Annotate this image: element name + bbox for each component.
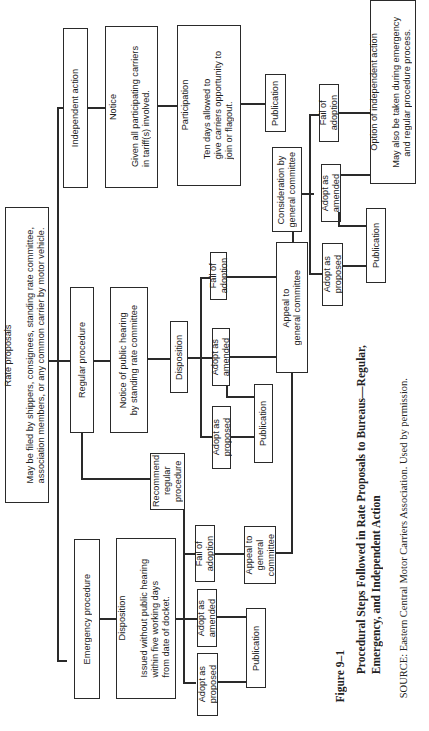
connector: [226, 396, 255, 398]
emergency-publication-box: Publication: [246, 608, 266, 688]
rate-proposals-box: Rate proposals May be filed by shippers,…: [5, 207, 49, 503]
recommend-regular-box: Recommend regular procedure: [150, 453, 185, 510]
amended-label: Adopt as amended: [196, 599, 218, 637]
independent-action-label: Independent action: [70, 69, 81, 147]
publication-label: Publication: [258, 401, 269, 446]
independent-publication-box: Publication: [265, 74, 286, 132]
fail-label: Fail of adoption: [194, 536, 216, 571]
option-title: Option of independent action: [369, 17, 380, 168]
figure-number: Figure 9–1: [334, 650, 346, 703]
regular-appeal-box: Appeal to general committee: [276, 242, 308, 373]
emergency-fail-box: Fail of adoption: [195, 525, 215, 582]
general-fail-box: Fail of adoption: [319, 84, 339, 142]
branch-line: [200, 277, 202, 437]
connector: [214, 553, 245, 555]
fail-label: Fail of adoption: [318, 95, 340, 130]
public-hearing-notice-box: Notice of public hearing by standing rat…: [110, 287, 148, 433]
option-body: May also be taken during emergency and r…: [391, 17, 413, 168]
emergency-appeal-box: Appeal to general committee: [244, 526, 276, 584]
regular-procedure-box: Regular procedure: [70, 287, 94, 433]
emergency-procedure-label: Emergency procedure: [82, 574, 93, 664]
regular-disposition-box: Disposition: [170, 321, 188, 393]
appeal-label: Appeal to general committee: [244, 534, 277, 576]
general-publication-box: Publication: [366, 208, 386, 283]
emergency-procedure-box: Emergency procedure: [74, 539, 100, 699]
connector: [338, 225, 367, 227]
proposed-label: Adopt as proposed: [322, 255, 344, 293]
connector: [216, 616, 247, 618]
notice-box: Notice Given all participating carriers …: [105, 26, 158, 188]
regular-fail-box: Fail of adoption: [210, 252, 227, 300]
public-hearing-notice-label: Notice of public hearing by standing rat…: [118, 305, 140, 415]
proposed-label: Adopt as proposed: [197, 665, 219, 703]
figure-title: Procedural Steps Followed in Rate Propos…: [354, 345, 384, 674]
notice-body: Given all participating carriers in tari…: [130, 46, 152, 167]
consideration-box: Consideration by general committee: [272, 147, 302, 232]
connector: [183, 682, 196, 684]
participation-title: Participation: [180, 51, 191, 159]
regular-amended-box: Adopt as amended: [212, 328, 230, 386]
connector: [147, 358, 171, 360]
rate-proposals-body: May be filed by shippers, consignees, st…: [25, 227, 47, 483]
publication-label: Publication: [371, 223, 382, 268]
publication-label: Publication: [251, 626, 262, 671]
independent-action-box: Independent action: [63, 28, 88, 188]
connector: [240, 103, 266, 105]
connector: [57, 660, 67, 662]
connector: [81, 478, 151, 480]
participation-box: Participation Ten days allowed to give c…: [177, 25, 241, 186]
amended-label: Adopt as amended: [320, 174, 342, 212]
independent-option-box: Option of independent action May also be…: [370, 0, 416, 184]
rate-proposals-title: Rate proposals: [3, 227, 14, 483]
connector: [81, 432, 83, 480]
connector: [226, 276, 277, 278]
emergency-disposition-body: Issued without public hearing within fiv…: [139, 559, 172, 678]
general-proposed-box: Adopt as proposed: [322, 243, 343, 306]
spine-line: [57, 107, 59, 661]
publication-label: Publication: [270, 81, 281, 126]
connector: [57, 360, 71, 362]
connector: [340, 174, 371, 176]
regular-proposed-box: Adopt as proposed: [212, 406, 231, 469]
regular-publication-box: Publication: [254, 384, 273, 463]
notice-title: Notice: [108, 46, 119, 167]
regular-disposition-label: Disposition: [174, 335, 185, 380]
emergency-proposed-box: Adopt as proposed: [197, 653, 218, 716]
consideration-label: Consideration by general committee: [276, 152, 298, 228]
connector: [230, 436, 255, 438]
figure-source: SOURCE: Eastern Central Motor Carriers A…: [398, 378, 409, 698]
recommend-label: Recommend regular procedure: [151, 455, 184, 507]
emergency-disposition-title: Disposition: [117, 559, 128, 678]
connector: [93, 360, 111, 362]
branch-line: [183, 509, 185, 683]
connector: [292, 231, 294, 243]
connector: [301, 193, 314, 195]
connector: [338, 212, 340, 226]
branch-line: [309, 114, 311, 274]
emergency-disposition-box: Disposition Issued without public hearin…: [116, 538, 176, 699]
appeal-label: Appeal to general committee: [281, 270, 303, 346]
regular-procedure-label: Regular procedure: [77, 322, 88, 398]
participation-body: Ten days allowed to give carriers opport…: [202, 51, 235, 159]
connector: [217, 681, 247, 683]
emergency-amended-box: Adopt as amended: [197, 589, 217, 647]
connector: [229, 356, 277, 358]
appeal-line: [291, 372, 293, 554]
connector: [309, 273, 322, 275]
connector: [342, 265, 367, 267]
